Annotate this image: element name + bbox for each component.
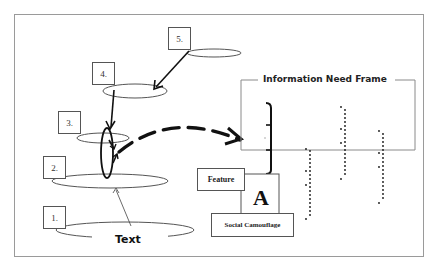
frame-title: Information Need Frame [259,74,391,84]
social-camouflage-box: Social Camouflage [211,213,294,237]
level-1-number-box: 1. [43,206,66,229]
information-need-frame [241,80,415,150]
text-base-label: Text [115,233,141,246]
level-4-number: 4. [100,69,107,79]
level-3-number-box: 3. [58,111,81,134]
feedback-loop-ellipse [101,128,113,178]
level-1-number: 1. [51,213,58,223]
social-camouflage-label: Social Camouflage [225,221,281,229]
text-to-level-2-arrow [116,190,131,226]
level-4-number-box: 4. [92,62,115,85]
dotted-column-2 [340,106,346,180]
level-5-to-4-arrow [156,51,189,87]
feature-box: Feature [197,168,245,191]
level-3-number: 3. [66,118,73,128]
level-2-number-box: 2. [43,156,66,179]
dotted-column-3 [378,130,384,204]
feature-bracket [266,103,271,174]
dotted-column-1 [305,148,311,220]
feature-letter: A [246,185,276,211]
level-5-number: 5. [176,34,183,44]
level-5-number-box: 5. [168,27,191,50]
level-2-number: 2. [51,163,58,173]
dashed-curved-arrow [119,128,240,153]
feature-label: Feature [208,175,235,184]
level-5-ellipse [187,49,241,57]
